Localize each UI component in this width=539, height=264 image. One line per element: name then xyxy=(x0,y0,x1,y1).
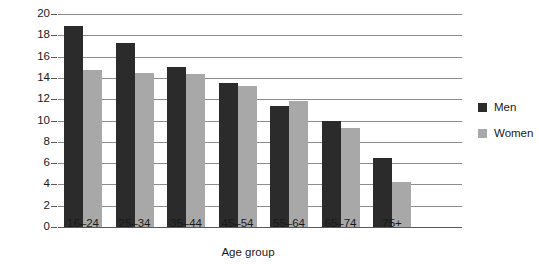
bar-women xyxy=(289,101,308,227)
bar-group xyxy=(116,14,154,227)
y-axis-tick-mark xyxy=(51,227,57,228)
bar-men xyxy=(64,26,83,227)
y-axis-tick-mark xyxy=(51,14,57,15)
bar-men xyxy=(167,67,186,227)
legend-item-men: Men xyxy=(478,101,533,113)
y-axis-tick-label: 6 xyxy=(16,157,50,169)
y-axis-tick-label: 4 xyxy=(16,179,50,191)
chart-legend: MenWomen xyxy=(478,101,533,153)
legend-item-women: Women xyxy=(478,127,533,139)
y-axis-tick-mark xyxy=(51,121,57,122)
x-axis-tick-label: 35–44 xyxy=(170,217,202,229)
bar-chart: Mean number of days in past four weeks 0… xyxy=(0,0,539,264)
bar-women xyxy=(135,73,154,227)
y-axis-tick-mark xyxy=(51,78,57,79)
y-axis-tick-mark xyxy=(51,206,57,207)
bar-group xyxy=(167,14,205,227)
y-axis-tick-mark xyxy=(51,57,57,58)
y-axis-tick-label: 20 xyxy=(16,8,50,20)
legend-label: Men xyxy=(494,101,516,113)
y-axis-tick-mark xyxy=(51,184,57,185)
bar-women xyxy=(341,128,360,227)
bar-group xyxy=(373,14,411,227)
y-axis-tick-mark xyxy=(51,99,57,100)
bar-men xyxy=(322,121,341,228)
x-axis-tick-label: 45–54 xyxy=(222,217,254,229)
y-axis-tick-label: 8 xyxy=(16,136,50,148)
x-axis-tick-label: 25–34 xyxy=(119,217,151,229)
bar-men xyxy=(270,106,289,227)
bar-women xyxy=(83,70,102,227)
women-swatch-icon xyxy=(478,129,487,138)
legend-label: Women xyxy=(494,127,533,139)
y-axis-tick-label: 14 xyxy=(16,72,50,84)
men-swatch-icon xyxy=(478,103,487,112)
y-axis-tick-label: 12 xyxy=(16,93,50,105)
x-axis-tick-label: 65–74 xyxy=(325,217,357,229)
bar-women xyxy=(238,86,257,227)
y-axis-tick-mark xyxy=(51,35,57,36)
bar-men xyxy=(219,83,238,227)
y-axis-tick-label: 2 xyxy=(16,200,50,212)
y-axis-tick-label: 0 xyxy=(16,221,50,233)
bar-group xyxy=(322,14,360,227)
bar-women xyxy=(186,74,205,227)
bar-group xyxy=(270,14,308,227)
bar-men xyxy=(116,43,135,227)
x-axis-tick-label: 16–24 xyxy=(67,217,99,229)
y-axis-tick-mark xyxy=(51,163,57,164)
x-axis-tick-label: 75+ xyxy=(382,217,402,229)
x-axis-title: Age group xyxy=(34,246,462,258)
y-axis-tick-label: 10 xyxy=(16,115,50,127)
bar-group xyxy=(64,14,102,227)
y-axis-tick-label: 18 xyxy=(16,30,50,42)
y-axis-tick-label: 16 xyxy=(16,51,50,63)
bars-layer xyxy=(58,14,462,227)
bar-group xyxy=(219,14,257,227)
plot-area: 02468101214161820 xyxy=(58,14,462,227)
y-axis-tick-mark xyxy=(51,142,57,143)
x-axis-tick-label: 55–64 xyxy=(273,217,305,229)
